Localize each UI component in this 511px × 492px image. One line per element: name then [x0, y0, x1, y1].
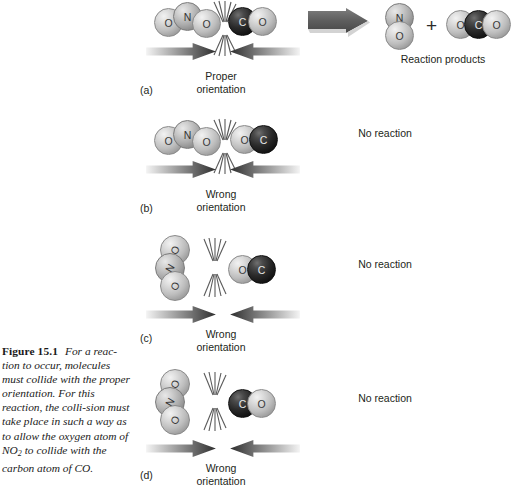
motion-arrow-left	[226, 161, 304, 178]
motion-arrow-right	[142, 161, 220, 178]
orientation-label-a: Proper orientation	[182, 70, 260, 95]
panel-d: O N O C O	[140, 362, 444, 492]
figure-caption: Figure 15.1For a reac- tion to occur, mo…	[2, 344, 134, 475]
motion-arrow-right	[142, 440, 220, 457]
atom-oxygen: O	[160, 405, 190, 435]
figure-number: Figure 15.1	[2, 345, 58, 357]
caption-text-body: tion to occur, molecules must collide wi…	[2, 359, 130, 474]
plus-sign: +	[426, 15, 437, 37]
orientation-label-b: Wrong orientation	[182, 188, 260, 213]
panel-letter-d: (d)	[140, 469, 153, 481]
panel-letter-a: (a)	[140, 84, 153, 96]
motion-arrow-right	[142, 43, 220, 60]
atom-carbon: C	[247, 255, 276, 284]
atom-oxygen: O	[160, 271, 190, 301]
panel-b: O N O O C	[140, 112, 444, 220]
products-label: Reaction products	[388, 53, 498, 66]
panel-letter-b: (b)	[140, 202, 153, 214]
atom-oxygen: O	[248, 7, 277, 36]
panel-a: O N O C O	[140, 0, 444, 110]
outcome-label-d: No reaction	[330, 392, 440, 405]
motion-arrow-left	[226, 306, 304, 323]
orientation-label-d: Wrong orientation	[182, 462, 260, 487]
motion-arrow-left	[226, 43, 304, 60]
caption-subscript: 2	[18, 449, 22, 458]
panel-c: O N O O C	[140, 228, 444, 340]
outcome-label-b: No reaction	[330, 127, 440, 140]
orientation-label-c: Wrong orientation	[182, 328, 260, 353]
panel-letter-c: (c)	[140, 332, 152, 344]
atom-oxygen: O	[385, 21, 414, 50]
motion-arrow-right	[142, 306, 220, 323]
atom-oxygen: O	[482, 10, 511, 39]
outcome-label-c: No reaction	[330, 258, 440, 271]
atom-oxygen: O	[247, 389, 276, 418]
motion-arrow-left	[226, 440, 304, 457]
atom-carbon: C	[249, 125, 278, 154]
caption-text-start: For a reac-	[65, 345, 117, 357]
reaction-arrow-icon	[308, 8, 372, 40]
